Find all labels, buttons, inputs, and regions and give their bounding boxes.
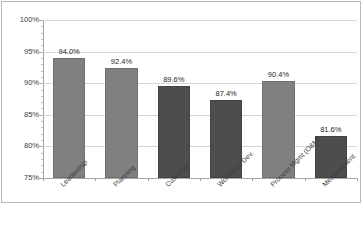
y-axis-label: 90% [24,79,39,87]
y-axis-tick-minor [41,45,43,46]
gridline [43,20,357,21]
bar-chart: 75%80%85%90%95%100% 94.0%92.4%89.6%87.4%… [0,0,364,234]
bar-value-label: 90.4% [259,70,299,79]
y-axis-label: 85% [24,111,39,119]
bar-value-label: 81.6% [311,125,351,134]
y-axis-tick-major [39,52,43,53]
bar-value-label: 87.4% [206,89,246,98]
y-axis-line [43,20,44,178]
y-axis-tick-minor [41,77,43,78]
y-axis-tick-minor [41,90,43,91]
x-axis-tick [43,178,44,181]
gridline [43,115,357,116]
y-axis-tick-minor [41,165,43,166]
y-axis-label: 95% [24,48,39,56]
x-axis-tick [200,178,201,181]
y-axis-tick-minor [41,102,43,103]
y-axis-tick-minor [41,153,43,154]
y-axis-label: 80% [24,142,39,150]
x-axis-tick [252,178,253,181]
y-axis-tick-minor [41,71,43,72]
bar-value-label: 89.6% [154,75,194,84]
y-axis-tick-minor [41,140,43,141]
y-axis-tick-major [39,146,43,147]
gridline [43,52,357,53]
y-axis-tick-minor [41,127,43,128]
y-axis-tick-minor [41,39,43,40]
bar-value-label: 92.4% [102,57,142,66]
y-axis-tick-major [39,115,43,116]
x-axis-tick [95,178,96,181]
y-axis-label: 100% [20,16,39,24]
y-axis-tick-minor [41,96,43,97]
y-axis-tick-minor [41,58,43,59]
bar[interactable] [105,68,137,178]
y-axis-tick-minor [41,121,43,122]
y-axis-tick-minor [41,159,43,160]
y-axis-tick-minor [41,172,43,173]
y-axis-label: 75% [24,174,39,182]
y-axis-tick-major [39,20,43,21]
x-axis-tick [148,178,149,181]
bar-value-label: 94.0% [49,47,89,56]
y-axis-tick-minor [41,64,43,65]
y-axis-tick-major [39,83,43,84]
x-axis-tick [357,178,358,181]
y-axis-tick-minor [41,134,43,135]
gridline [43,83,357,84]
y-axis-tick-minor [41,33,43,34]
plot-area [43,20,357,178]
y-axis-tick-minor [41,26,43,27]
x-axis-tick [305,178,306,181]
y-axis-tick-minor [41,108,43,109]
